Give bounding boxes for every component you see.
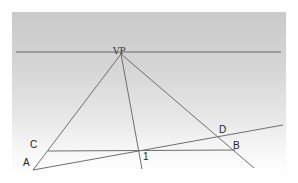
construction-lines	[33, 54, 283, 170]
perspective-diagram: VPCA1DB	[0, 0, 298, 183]
point-c-label: C	[30, 139, 37, 150]
point-a-label: A	[23, 157, 30, 168]
point-b-label: B	[233, 140, 240, 151]
vp-to-a-line	[33, 54, 121, 170]
point-d-label: D	[219, 124, 226, 135]
point-1-label: 1	[143, 151, 149, 162]
vp-to-1-line	[121, 54, 142, 169]
vp-label: VP	[112, 46, 126, 56]
a-to-d-line	[33, 125, 283, 170]
diagram-svg: VPCA1DB	[0, 0, 298, 183]
